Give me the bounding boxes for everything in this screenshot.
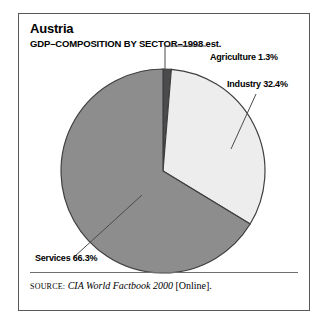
slice-label-agriculture: Agriculture 1.3% xyxy=(210,52,278,62)
source-divider xyxy=(30,272,298,273)
pie-slices xyxy=(61,69,265,273)
chart-figure: Austria GDP–COMPOSITION BY SECTOR–1998 e… xyxy=(18,13,310,311)
leader-line-agriculture xyxy=(165,46,206,71)
source-note: SOURCE: CIA World Factbook 2000 [Online]… xyxy=(30,280,212,291)
source-work: CIA World Factbook 2000 xyxy=(68,280,173,291)
source-suffix: [Online]. xyxy=(175,280,211,291)
slice-label-industry: Industry 32.4% xyxy=(227,79,288,89)
source-prefix: SOURCE: xyxy=(30,282,65,291)
slice-label-services: Services 66.3% xyxy=(35,253,97,263)
